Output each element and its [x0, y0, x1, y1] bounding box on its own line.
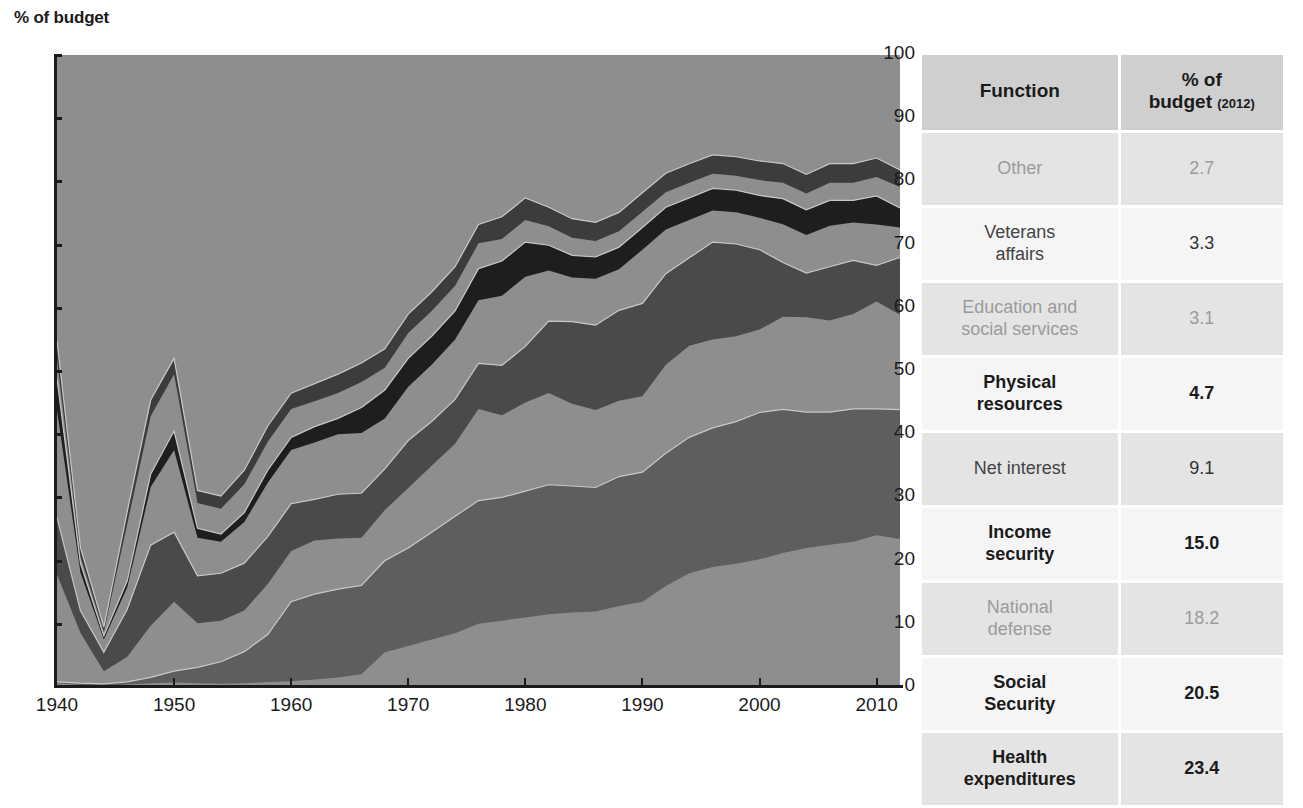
plot-svg [57, 55, 900, 687]
table-header-row: Function % of budget (2012) [922, 55, 1283, 131]
cell-percent: 3.1 [1119, 281, 1283, 356]
x-tick-label: 2000 [738, 694, 780, 716]
y-tick-label: 70 [871, 232, 915, 254]
cell-function: Veteransaffairs [922, 206, 1119, 281]
x-tick-label: 1940 [36, 694, 78, 716]
y-tick-label: 20 [871, 548, 915, 570]
x-tick-mark [407, 678, 409, 687]
cell-function-line2: defense [988, 619, 1052, 639]
cell-function: Education andsocial services [922, 281, 1119, 356]
x-tick-mark [641, 678, 643, 687]
cell-function-line1: Education and [962, 297, 1077, 317]
cell-function-line1: Income [988, 522, 1051, 542]
x-tick-mark [173, 678, 175, 687]
x-tick-label: 2010 [855, 694, 897, 716]
y-tick-mark [54, 560, 62, 563]
y-tick-label: 0 [871, 674, 915, 696]
y-tick-label: 100 [871, 42, 915, 64]
x-tick-mark [759, 678, 761, 687]
x-tick-label: 1980 [504, 694, 546, 716]
cell-function-line2: social services [961, 319, 1078, 339]
cell-function-line2: security [985, 544, 1054, 564]
cell-percent: 2.7 [1119, 131, 1283, 206]
y-tick-mark [54, 54, 62, 57]
cell-function-line1: Veterans [984, 222, 1055, 242]
cell-function-line2: expenditures [964, 769, 1076, 789]
table-row: Incomesecurity15.0 [922, 506, 1283, 581]
table-row: Other2.7 [922, 131, 1283, 206]
header-pct-line2: budget [1149, 91, 1212, 112]
x-tick-mark [524, 678, 526, 687]
x-tick-label: 1960 [270, 694, 312, 716]
y-tick-label: 40 [871, 421, 915, 443]
cell-function: Physicalresources [922, 356, 1119, 431]
stacked-area-chart: 0102030405060708090100 19401950196019701… [0, 0, 915, 730]
y-tick-mark [54, 623, 62, 626]
table-row: Veteransaffairs3.3 [922, 206, 1283, 281]
cell-function: SocialSecurity [922, 656, 1119, 731]
cell-percent: 9.1 [1119, 431, 1283, 506]
y-tick-mark [54, 370, 62, 373]
area-layers [57, 55, 900, 687]
cell-function-line2: affairs [995, 244, 1044, 264]
table-row: Physicalresources4.7 [922, 356, 1283, 431]
y-tick-label: 30 [871, 484, 915, 506]
y-tick-mark [54, 307, 62, 310]
cell-function-line2: Security [984, 694, 1055, 714]
cell-percent: 4.7 [1119, 356, 1283, 431]
cell-function-line1: Physical [983, 372, 1056, 392]
y-tick-mark [54, 244, 62, 247]
x-tick-label: 1950 [153, 694, 195, 716]
table-row: Healthexpenditures23.4 [922, 731, 1283, 806]
budget-table: Function % of budget (2012) Other2.7Vete… [922, 55, 1283, 808]
header-pct-budget: % of budget (2012) [1119, 55, 1283, 131]
cell-function-line1: Health [992, 747, 1047, 767]
table-row: Nationaldefense18.2 [922, 581, 1283, 656]
cell-function-line1: Social [993, 672, 1046, 692]
header-pct-line1: % of [1182, 69, 1222, 90]
y-tick-label: 50 [871, 358, 915, 380]
header-function: Function [922, 55, 1119, 131]
cell-function: Nationaldefense [922, 581, 1119, 656]
header-pct-year: (2012) [1217, 96, 1255, 111]
cell-percent: 18.2 [1119, 581, 1283, 656]
x-tick-mark [290, 678, 292, 687]
cell-function-line2: resources [977, 394, 1063, 414]
plot-area [57, 55, 900, 687]
table-body: Other2.7Veteransaffairs3.3Education ands… [922, 131, 1283, 806]
cell-function: Incomesecurity [922, 506, 1119, 581]
cell-function-line1: National [987, 597, 1053, 617]
table-row: SocialSecurity20.5 [922, 656, 1283, 731]
y-tick-label: 90 [871, 105, 915, 127]
y-tick-mark [54, 433, 62, 436]
y-tick-label: 80 [871, 168, 915, 190]
y-tick-label: 60 [871, 295, 915, 317]
cell-percent: 3.3 [1119, 206, 1283, 281]
x-axis-line [54, 685, 903, 688]
cell-function: Net interest [922, 431, 1119, 506]
y-tick-mark [54, 117, 62, 120]
x-tick-mark [876, 678, 878, 687]
table-row: Net interest9.1 [922, 431, 1283, 506]
y-tick-label: 10 [871, 611, 915, 633]
cell-percent: 23.4 [1119, 731, 1283, 806]
cell-function: Other [922, 131, 1119, 206]
x-tick-label: 1970 [387, 694, 429, 716]
cell-function: Healthexpenditures [922, 731, 1119, 806]
table-row: Education andsocial services3.1 [922, 281, 1283, 356]
y-tick-mark [54, 180, 62, 183]
cell-percent: 15.0 [1119, 506, 1283, 581]
cell-percent: 20.5 [1119, 656, 1283, 731]
y-tick-mark [54, 496, 62, 499]
x-tick-label: 1990 [621, 694, 663, 716]
